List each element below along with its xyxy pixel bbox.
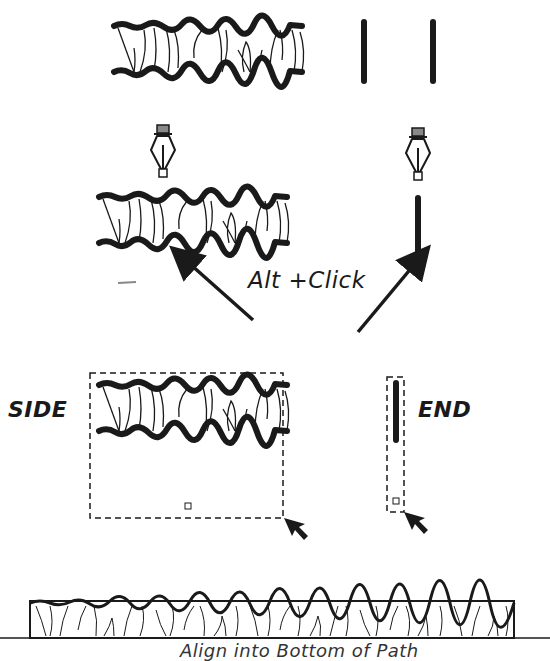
cursor-arrow-icon	[284, 518, 308, 540]
end-label: END	[418, 397, 471, 422]
top-brush-stroke	[114, 15, 304, 87]
arrow-icon	[190, 264, 253, 320]
alt-click-label: Alt +Click	[248, 267, 366, 293]
caption: Align into Bottom of Path	[180, 640, 419, 661]
pen-tool-icon	[151, 125, 175, 177]
pen-on-brush	[99, 186, 289, 258]
end-tile	[387, 377, 404, 512]
cursor-arrow-icon	[404, 512, 428, 534]
side-label: SIDE	[8, 397, 67, 422]
pen-tool-icon	[406, 128, 430, 180]
result-border	[0, 580, 550, 638]
side-tile	[90, 373, 289, 518]
top-end-strokes	[364, 22, 433, 81]
arrow-icon	[358, 266, 413, 332]
stray-mark	[118, 282, 136, 283]
